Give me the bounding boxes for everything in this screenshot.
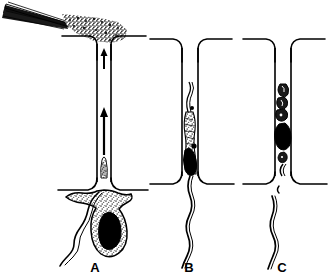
flow-arrow-lower xyxy=(100,107,108,155)
panel-label-a: A xyxy=(90,260,100,275)
channel-wall-c-top xyxy=(243,39,325,62)
sperm-cell-c xyxy=(275,84,292,176)
sperm-tip-in-pore-a xyxy=(101,157,108,178)
panel-a: A xyxy=(2,2,148,275)
panel-label-b: B xyxy=(184,260,193,275)
channel-wall-c-bottom xyxy=(243,172,327,184)
figure-root: A xyxy=(0,0,330,277)
flagellum-c-detached xyxy=(268,186,279,269)
sperm-cell-a xyxy=(60,190,132,266)
flow-arrow-upper xyxy=(101,48,108,69)
panel-label-c: C xyxy=(277,260,287,275)
micropipette xyxy=(2,2,72,29)
channel-wall-a-bottom xyxy=(58,178,148,190)
panel-b: B xyxy=(150,39,234,275)
channel-wall-b-top xyxy=(150,39,232,62)
sperm-penetration-figure: A xyxy=(0,0,330,277)
flagellum-b xyxy=(182,176,195,268)
panel-c: C xyxy=(243,39,327,275)
sperm-cell-b xyxy=(184,82,197,175)
